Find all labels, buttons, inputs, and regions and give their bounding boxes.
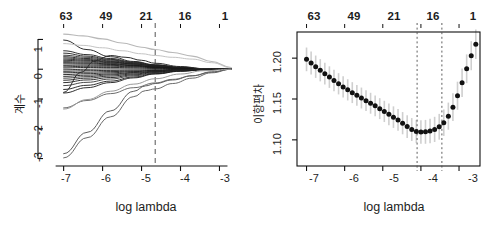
coefficient-path-panel: 63 49 21 16 1 1 0 -1 -2 -3 계수 -7 -6 -5 -… xyxy=(0,0,242,228)
error-bars xyxy=(307,30,476,144)
top-axis xyxy=(64,24,220,28)
cv-deviance-canvas xyxy=(242,0,484,228)
x-axis xyxy=(56,166,228,171)
y-axis-bracket xyxy=(38,39,43,158)
y-axis-ticks xyxy=(292,58,297,140)
x-axis-ticks xyxy=(307,166,460,171)
figure-container: 63 49 21 16 1 1 0 -1 -2 -3 계수 -7 -6 -5 -… xyxy=(0,0,484,228)
top-axis-ticks xyxy=(307,24,460,28)
coefficient-path-canvas xyxy=(0,0,242,228)
cv-deviance-panel: 63 49 21 16 1 1.20 1.15 1.10 이항편차 -7 -6 … xyxy=(242,0,484,228)
